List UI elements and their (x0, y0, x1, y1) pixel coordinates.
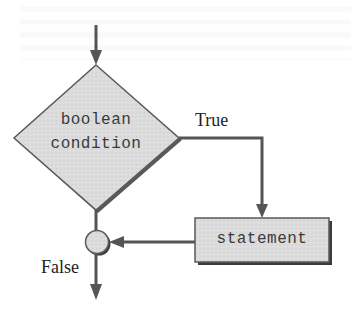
exit-arrow (90, 254, 102, 300)
flowchart-canvas: boolean condition statement True False (0, 0, 351, 317)
statement-label: statement (195, 230, 329, 248)
true-branch-label: True (195, 110, 228, 131)
false-branch-label: False (41, 257, 79, 278)
condition-label-line2: condition (36, 135, 156, 153)
loop-back-connector (109, 236, 195, 248)
condition-label-line1: boolean (46, 111, 146, 129)
true-branch-connector (179, 138, 268, 218)
junction-circle (86, 231, 109, 254)
entry-arrow (90, 25, 102, 65)
